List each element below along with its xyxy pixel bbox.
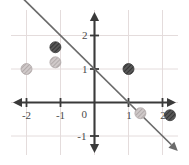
x-tick-label: -2 <box>22 110 31 121</box>
y-tick-label: -1 <box>77 131 86 142</box>
x-tick-label: 2 <box>160 110 166 121</box>
y-tick-label: 1 <box>82 64 88 75</box>
plot-area <box>0 0 189 165</box>
data-point <box>21 64 32 75</box>
data-point <box>50 57 61 68</box>
x-tick-label: -1 <box>56 110 65 121</box>
data-point <box>135 108 146 119</box>
scatter-points <box>21 42 175 121</box>
x-tick-label: 1 <box>126 110 132 121</box>
data-point <box>50 42 61 53</box>
origin-label: 0 <box>82 109 88 120</box>
coordinate-graph: -2-11221-10 <box>0 0 189 165</box>
axes <box>13 12 176 153</box>
data-point <box>164 110 175 121</box>
y-tick-label: 2 <box>82 30 88 41</box>
data-point <box>123 64 134 75</box>
